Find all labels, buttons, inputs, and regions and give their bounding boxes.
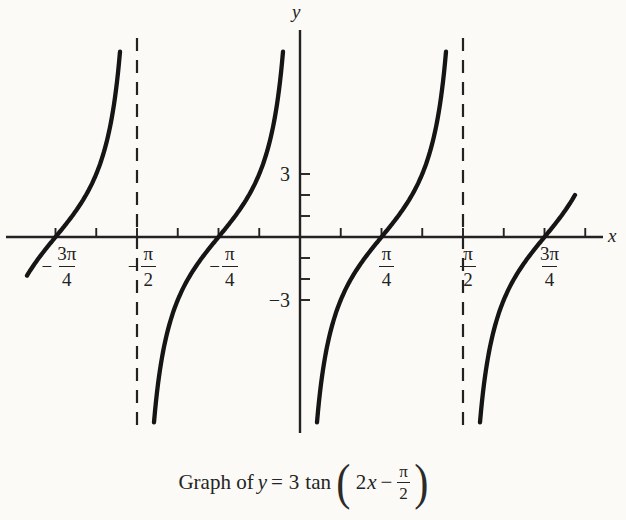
fraction-numerator: 3π: [54, 244, 79, 266]
tangent-curve-branch-4: [480, 195, 575, 422]
caption-x-variable: x: [367, 470, 376, 495]
tangent-function-figure: −3π4−π2−π4π4π23π43−3xy Graph ofy=3tan(2x…: [0, 0, 626, 520]
caption-equals-sign: =: [271, 470, 283, 495]
fraction-denominator: 4: [222, 266, 238, 289]
fraction-numerator: π: [379, 244, 395, 266]
fraction-numerator: 3π: [537, 244, 562, 266]
fraction: π2: [141, 244, 157, 289]
x-tick-label: −π2: [110, 244, 174, 289]
x-tick-label: π2: [436, 244, 500, 289]
graph-svg: [0, 0, 626, 446]
figure-caption: Graph ofy=3tan(2x−π2): [0, 452, 616, 512]
caption-fraction-denominator: 2: [397, 482, 410, 502]
fraction: 3π4: [537, 244, 562, 289]
caption-fraction-numerator: π: [397, 463, 410, 482]
caption-minus-sign: −: [380, 470, 392, 495]
caption-prefix: Graph of: [178, 470, 253, 495]
y-tick-label: 3: [250, 161, 290, 187]
minus-sign: −: [42, 257, 53, 276]
fraction-numerator: π: [222, 244, 238, 266]
caption-function-name: tan: [305, 470, 331, 495]
minus-sign: −: [209, 257, 220, 276]
fraction-denominator: 2: [141, 266, 157, 289]
fraction: π2: [460, 244, 476, 289]
x-tick-label: −3π4: [29, 244, 93, 289]
fraction-denominator: 2: [460, 266, 476, 289]
fraction-numerator: π: [460, 244, 476, 266]
caption-y-variable: y: [258, 470, 267, 495]
fraction: 3π4: [54, 244, 79, 289]
fraction-denominator: 4: [379, 266, 395, 289]
y-axis-letter-label: y: [292, 1, 300, 23]
tangent-graph-plot: −3π4−π2−π4π4π23π43−3xy: [0, 0, 626, 446]
caption-argument-coefficient: 2: [356, 470, 367, 495]
fraction-denominator: 4: [59, 266, 75, 289]
tangent-curve-branch-1: [27, 52, 120, 276]
caption-coefficient: 3: [289, 470, 300, 495]
fraction-denominator: 4: [542, 266, 558, 289]
y-tick-label: −3: [250, 287, 290, 313]
fraction: π4: [222, 244, 238, 289]
x-axis-letter-label: x: [608, 225, 616, 247]
minus-sign: −: [128, 257, 139, 276]
fraction: π4: [379, 244, 395, 289]
x-tick-label: −π4: [192, 244, 256, 289]
x-tick-label: π4: [355, 244, 419, 289]
x-tick-label: 3π4: [518, 244, 582, 289]
fraction-numerator: π: [141, 244, 157, 266]
caption-pi-over-2-fraction: π2: [397, 463, 410, 502]
